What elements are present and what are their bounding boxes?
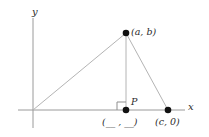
p-point-label: P [131,97,137,107]
apex-point-label: (a, b) [131,27,156,37]
x-axis-label: x [188,102,194,112]
point-dot-p [123,107,130,114]
right-vertex-label: (c, 0) [155,117,180,127]
y-axis-label: y [32,7,38,17]
triangle-side-origin-to-apex [33,33,126,110]
point-dot-apex [123,30,130,37]
coordinate-geometry-figure: y x (a, b) P (c, 0) (__ , __) [0,0,209,137]
point-dot-c [165,107,172,114]
blank-coordinate-label: (__ , __) [102,117,137,127]
